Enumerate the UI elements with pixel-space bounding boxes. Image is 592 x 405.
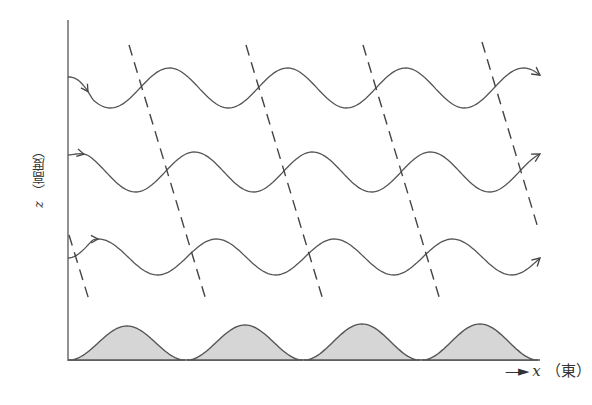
z-axis-label: z （高度） — [29, 145, 49, 208]
x-axis-arrow-icon: —► — [505, 362, 528, 380]
x-axis-label-text: （東） — [546, 362, 591, 380]
terrain-ridge — [304, 324, 420, 360]
phase-line — [482, 42, 538, 228]
z-axis-variable: z — [31, 201, 46, 208]
x-axis-variable: x — [532, 362, 540, 380]
terrain-ridge — [187, 325, 303, 360]
terrain-ridge — [422, 324, 538, 360]
streamlines — [68, 67, 540, 275]
lower-streamline — [68, 239, 540, 275]
phase-line — [69, 235, 89, 300]
phase-line — [246, 45, 323, 300]
phase-line — [363, 45, 440, 300]
z-axis-label-text: （高度） — [31, 145, 46, 197]
x-axis-label: —► x （東） — [505, 359, 591, 380]
streamline-end-arrow-icon — [531, 154, 540, 162]
upper-streamline — [68, 68, 540, 108]
phase-lines — [69, 42, 538, 300]
terrain-ridge — [69, 326, 185, 360]
streamline-start-arrow-icon — [76, 149, 84, 157]
lee-wave-diagram — [0, 0, 592, 405]
middle-streamline — [68, 152, 540, 192]
terrain-ridges — [69, 324, 538, 360]
